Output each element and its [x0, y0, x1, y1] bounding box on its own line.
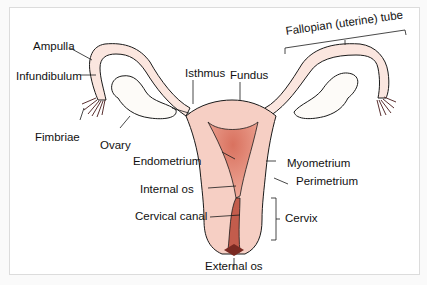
label-infundibulum: Infundibulum: [16, 71, 82, 83]
label-myometrium: Myometrium: [287, 158, 350, 170]
label-fundus: Fundus: [230, 70, 268, 82]
label-perimetrium: Perimetrium: [296, 176, 358, 188]
label-cervix: Cervix: [285, 213, 318, 225]
label-ampulla: Ampulla: [33, 41, 75, 53]
label-internal-os: Internal os: [140, 184, 194, 196]
label-external-os: External os: [205, 261, 263, 273]
label-ovary: Ovary: [100, 140, 131, 152]
label-fimbriae: Fimbriae: [35, 132, 80, 144]
label-cervical-canal: Cervical canal: [135, 211, 207, 223]
label-endometrium: Endometrium: [133, 156, 201, 168]
label-isthmus: Isthmus: [185, 68, 225, 80]
cervix-bracket: [271, 198, 280, 240]
